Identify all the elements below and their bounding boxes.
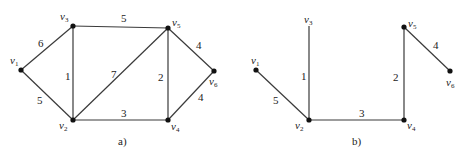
edge-weight-label: 3: [359, 107, 365, 119]
vertex-label-v5: v5: [408, 17, 417, 31]
edge-v4-v6: [168, 71, 214, 120]
vertex-v5: [165, 25, 170, 30]
edge-weight-label: 6: [38, 37, 44, 49]
vertex-v1: [18, 67, 23, 72]
vertex-label-v1: v1: [251, 54, 260, 68]
edge-weight-label: 7: [111, 68, 117, 80]
vertex-label-v6: v6: [446, 76, 455, 90]
edge-v5-v6: [168, 28, 214, 71]
vertex-label-v2: v2: [295, 119, 304, 133]
diagram-canvas: 655172443v1v3v5v6v2v4a)51324v1v3v5v6v2v4…: [0, 0, 469, 157]
edge-weight-label: 4: [196, 39, 202, 51]
vertex-v3: [70, 23, 75, 28]
vertex-label-v4: v4: [407, 119, 416, 133]
edge-v3-v5: [73, 26, 168, 28]
vertex-v2: [70, 117, 75, 122]
edge-v5-v6: [404, 27, 450, 71]
vertex-label-v3: v3: [60, 10, 69, 24]
vertex-label-v5: v5: [172, 16, 181, 30]
caption-a: a): [118, 135, 127, 148]
edge-weight-label: 2: [158, 71, 164, 83]
vertex-v1: [253, 67, 258, 72]
vertex-v2: [306, 117, 311, 122]
edge-weight-label: 1: [301, 70, 307, 82]
graph-b: 51324v1v3v5v6v2v4b): [251, 13, 455, 148]
vertex-v6: [211, 68, 216, 73]
vertex-v4: [401, 117, 406, 122]
vertex-v6: [447, 68, 452, 73]
edge-v1-v3: [21, 26, 73, 70]
graph-a: 655172443v1v3v5v6v2v4a): [10, 10, 218, 148]
vertex-label-v6: v6: [209, 75, 218, 89]
vertex-v4: [165, 117, 170, 122]
vertex-label-v1: v1: [10, 54, 19, 68]
vertex-label-v2: v2: [59, 119, 68, 133]
edge-weight-label: 5: [273, 94, 279, 106]
vertex-v5: [401, 24, 406, 29]
edge-weight-label: 3: [121, 107, 127, 119]
edge-weight-label: 4: [198, 91, 204, 103]
vertex-label-v4: v4: [171, 120, 180, 134]
graph-figure: 655172443v1v3v5v6v2v4a)51324v1v3v5v6v2v4…: [0, 0, 469, 157]
vertex-label-v3: v3: [304, 13, 313, 27]
edge-weight-label: 2: [393, 71, 399, 83]
edge-weight-label: 5: [37, 94, 43, 106]
caption-b: b): [352, 135, 362, 148]
edge-weight-label: 5: [121, 12, 127, 24]
edge-weight-label: 4: [433, 39, 439, 51]
edge-weight-label: 1: [65, 70, 71, 82]
